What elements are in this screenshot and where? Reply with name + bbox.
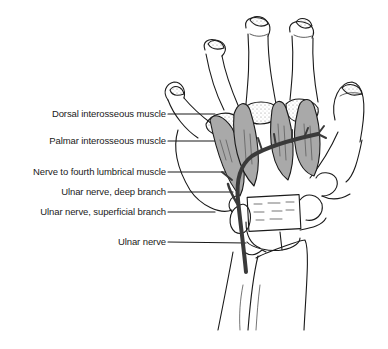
hand-illustration (0, 0, 388, 349)
metacarpal-heads (170, 17, 362, 136)
finger-index (290, 21, 318, 102)
finger-ring (204, 39, 240, 110)
finger-middle (246, 17, 276, 104)
forearm-bones (218, 240, 307, 330)
